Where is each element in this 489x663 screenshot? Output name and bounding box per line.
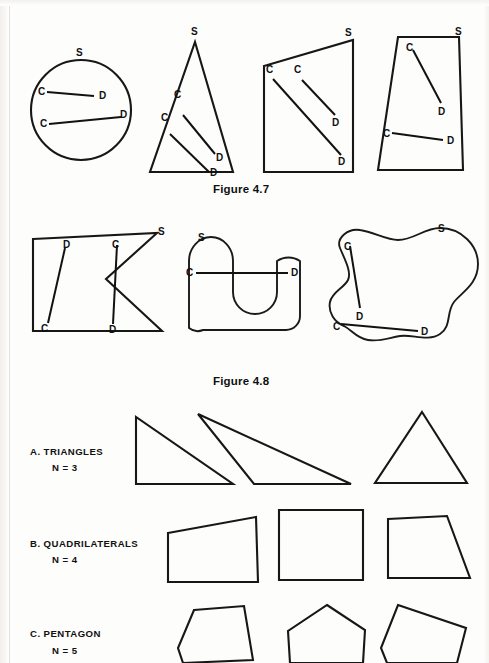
chord-segment [392,133,443,140]
set-label-s: S [158,227,165,237]
chord-segment [341,324,418,331]
polygon-row-sublabel: N = 3 [52,462,77,473]
point-label-d: D [109,325,116,335]
polygon-row-sublabel: N = 4 [52,554,77,565]
chord-segment [113,245,117,324]
shape-u-shape [189,237,300,331]
figure-caption: Figure 4.7 [213,183,269,195]
point-label-c: C [333,322,340,332]
point-label-c: C [38,87,45,97]
point-label-d: D [438,107,445,117]
point-label-d: D [210,168,217,178]
point-label-c: C [383,129,390,139]
set-label-s: S [198,233,205,243]
point-label-d: D [63,240,70,250]
shape-irregular-pentagon [178,606,253,663]
chord-segment [48,248,65,323]
shape-right-trapezoid-quad [388,516,470,578]
shape-square-quad [279,510,363,580]
set-label-s: S [76,48,83,58]
chord-segment [183,115,215,154]
shape-trapezoid [378,37,463,170]
point-label-c: C [40,119,47,129]
scanned-page: CDCDSCDCDSCDCDSCDCDSFigure 4.7CDCDSCDSCD… [0,0,489,663]
point-label-c: C [294,65,301,75]
set-label-s: S [455,27,462,37]
figure-caption: Figure 4.8 [213,375,269,387]
point-label-d: D [120,110,127,120]
shape-tilted-pentagon [381,605,466,663]
shape-regular-pentagon [288,605,365,663]
chord-segment [273,79,341,155]
point-label-d: D [356,312,363,322]
point-label-c: C [406,43,413,53]
shape-blob [330,228,478,341]
shape-circle [31,60,131,160]
chord-segment [350,246,360,308]
point-label-c: C [186,268,193,278]
point-label-d: D [332,118,339,128]
point-label-d: D [447,136,454,146]
shape-trapezoid-quad [168,517,258,582]
polygon-row-label: B. QUADRILATERALS [30,538,138,549]
set-label-s: S [438,224,445,234]
point-label-c: C [161,113,168,123]
point-label-c: C [41,324,48,334]
set-label-s: S [191,27,198,37]
chord-segment [413,50,441,103]
chord-segment [302,80,335,115]
point-label-c: C [266,65,273,75]
point-label-c: C [174,90,181,100]
point-label-c: C [344,242,351,252]
shape-isosceles-triangle [375,412,467,483]
point-label-c: C [112,240,119,250]
point-label-d: D [291,268,298,278]
set-label-s: S [345,28,352,38]
shape-right-triangle [136,417,233,484]
polygon-row-label: A. TRIANGLES [30,446,103,457]
point-label-d: D [421,327,428,337]
polygon-row-label: C. PENTAGON [30,628,101,639]
shape-obtuse-triangle [198,414,351,484]
chord-segment [49,117,121,124]
point-label-d: D [99,91,106,101]
point-label-d: D [216,153,223,163]
polygon-row-sublabel: N = 5 [52,645,77,656]
point-label-d: D [338,157,345,167]
shape-concave-arrowhead-polygon [33,233,162,331]
chord-segment [47,92,94,96]
